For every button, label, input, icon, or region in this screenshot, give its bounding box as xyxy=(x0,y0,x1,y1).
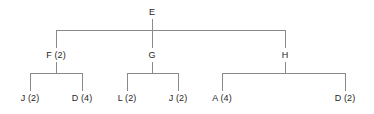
tree-diagram: E F (2) G H J (2) D (4) L (2) J (2) A (4… xyxy=(0,0,374,114)
tree-leaf-j-under-g: J (2) xyxy=(168,93,189,104)
tree-node-h: H xyxy=(281,50,290,61)
tree-leaf-a-under-h: A (4) xyxy=(211,93,233,104)
tree-leaf-d-under-f: D (4) xyxy=(71,93,94,104)
tree-node-g: G xyxy=(147,50,156,61)
tree-leaf-j-under-f: J (2) xyxy=(20,93,41,104)
tree-leaf-l-under-g: L (2) xyxy=(117,93,138,104)
tree-node-root-e: E xyxy=(148,7,156,18)
tree-node-f: F (2) xyxy=(45,50,67,61)
tree-leaf-d-under-h: D (2) xyxy=(334,93,357,104)
